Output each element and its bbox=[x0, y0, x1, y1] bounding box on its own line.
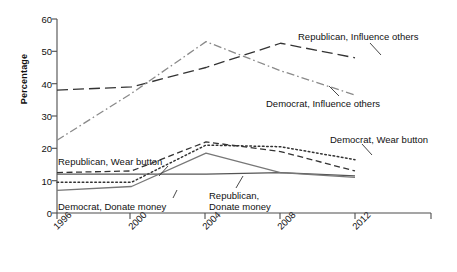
series-line-democrat-influence-others bbox=[57, 42, 355, 141]
leader-line-republican-influence-others bbox=[370, 43, 381, 55]
leader-line-democrat-wear-button bbox=[362, 144, 372, 155]
data-series-layer bbox=[57, 42, 355, 191]
leader-line-republican-donate-money bbox=[236, 176, 243, 188]
leader-line-democrat-donate-money bbox=[173, 190, 177, 198]
series-line-republican-wear-button bbox=[57, 142, 355, 173]
series-line-democrat-wear-button bbox=[57, 145, 355, 182]
chart-container: Percentage 60 50 40 30 20 10 0 1996 2000… bbox=[0, 0, 457, 272]
series-line-republican-influence-others bbox=[57, 43, 355, 90]
chart-plot-area bbox=[0, 0, 457, 272]
axes bbox=[52, 19, 431, 219]
